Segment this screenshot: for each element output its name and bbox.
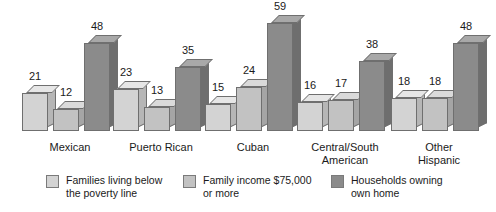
bar-chart: 211248231335152459161738181848 MexicanPu…: [0, 0, 496, 212]
bar-side-face: [479, 35, 487, 127]
bar-front-face: [359, 61, 385, 131]
bar-front-face: [391, 98, 417, 131]
legend-swatch-icon: [331, 175, 344, 188]
legend-item[interactable]: Family income $75,000 or more: [183, 174, 312, 199]
bar: 48: [453, 43, 479, 131]
bar-value-label: 35: [166, 44, 210, 56]
bar-value-label: 48: [444, 20, 488, 32]
bar-front-face: [453, 43, 479, 131]
bar-front-face: [297, 102, 323, 131]
bar-value-label: 18: [413, 75, 457, 87]
bar-front-face: [328, 100, 354, 131]
legend-swatch-icon: [46, 175, 59, 188]
bar-front-face: [422, 98, 448, 131]
bar-front-face: [84, 43, 110, 131]
legend-swatch-icon: [183, 175, 196, 188]
bar-value-label: 38: [350, 38, 394, 50]
bar-value-label: 24: [227, 64, 271, 76]
bar-front-face: [267, 23, 293, 131]
bar-value-label: 17: [319, 77, 363, 89]
bar-value-label: 48: [75, 20, 119, 32]
legend-item[interactable]: Families living below the poverty line: [46, 174, 162, 199]
bar: 18: [391, 98, 417, 131]
bar: 12: [53, 109, 79, 131]
bar: 16: [297, 102, 323, 131]
bar-front-face: [236, 87, 262, 131]
bar: 35: [175, 67, 201, 131]
bar: 48: [84, 43, 110, 131]
bar: 18: [422, 98, 448, 131]
legend-label: Families living below the poverty line: [66, 174, 162, 199]
bar-front-face: [53, 109, 79, 131]
category-axis-labels: MexicanPuerto RicanCubanCentral/SouthAme…: [0, 140, 496, 170]
legend-label: Households owning own home: [351, 174, 443, 199]
bar: 24: [236, 87, 262, 131]
category-label: OtherHispanic: [371, 141, 496, 166]
legend-label: Family income $75,000 or more: [203, 174, 312, 199]
bar-value-label: 21: [13, 70, 57, 82]
bar-value-label: 15: [196, 81, 240, 93]
bar: 15: [205, 104, 231, 131]
bar-value-label: 13: [135, 84, 179, 96]
bar-value-label: 59: [258, 0, 302, 12]
bar-value-label: 12: [44, 86, 88, 98]
bar: 38: [359, 61, 385, 131]
bar-front-face: [144, 107, 170, 131]
bar-front-face: [22, 93, 48, 131]
bar: 21: [22, 93, 48, 131]
bar-front-face: [175, 67, 201, 131]
legend-item[interactable]: Households owning own home: [331, 174, 443, 199]
bar-front-face: [205, 104, 231, 131]
plot-area: 211248231335152459161738181848: [0, 0, 496, 140]
bar: 59: [267, 23, 293, 131]
bar: 17: [328, 100, 354, 131]
bar: 13: [144, 107, 170, 131]
bar-value-label: 23: [104, 66, 148, 78]
chart-legend: Families living below the poverty lineFa…: [0, 174, 496, 212]
